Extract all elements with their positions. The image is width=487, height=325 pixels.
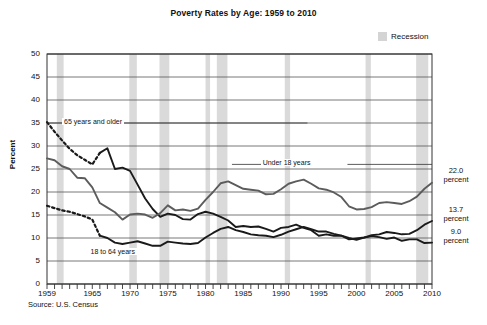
series-line [100, 221, 432, 246]
x-axis-tick-label: 1975 [148, 289, 188, 298]
end-value-adults: 13.7 [436, 205, 476, 214]
y-axis-tick-label: 25 [10, 165, 40, 173]
source-note: Source: U.S. Census [28, 300, 98, 309]
y-axis-tick-label: 50 [10, 50, 40, 58]
end-unit-older: percent [436, 236, 476, 245]
legend-recession: Recession [378, 32, 428, 41]
y-axis-tick-label: 15 [10, 211, 40, 219]
y-axis-tick-label: 40 [10, 96, 40, 104]
y-axis-tick-label: 35 [10, 119, 40, 127]
y-axis-tick-label: 20 [10, 188, 40, 196]
y-axis-tick-label: 45 [10, 73, 40, 81]
y-axis-tick-label: 10 [10, 234, 40, 242]
x-axis-tick-label: 1995 [299, 289, 339, 298]
series-label-18-to-64: 18 to 64 years [89, 248, 137, 255]
x-axis-tick-label: 1990 [261, 289, 301, 298]
series-label-65-and-older: 65 years and older [62, 118, 124, 125]
x-axis-tick-label: 1985 [223, 289, 263, 298]
series-line [47, 158, 432, 219]
page-title: Poverty Rates by Age: 1959 to 2010 [0, 8, 487, 18]
y-axis-title: Percent [8, 125, 17, 185]
y-axis-tick-label: 0 [10, 280, 40, 288]
series-line-dashed [47, 206, 100, 236]
series-label-under-18: Under 18 years [261, 159, 313, 166]
chart-root: Poverty Rates by Age: 1959 to 2010 Reces… [0, 0, 487, 325]
x-axis-tick-label: 2000 [337, 289, 377, 298]
plot-area [0, 0, 487, 325]
recession-swatch-icon [378, 32, 387, 41]
series-line-dashed [47, 122, 100, 164]
end-value-annotation: 9.0percent [436, 227, 476, 245]
legend-label-recession: Recession [391, 32, 428, 41]
end-value-annotation: 22.0percent [436, 166, 476, 184]
end-unit-adults: percent [436, 214, 476, 223]
x-axis-tick-label: 1970 [110, 289, 150, 298]
end-value-under18: 22.0 [436, 166, 476, 175]
x-axis-tick-label: 1965 [72, 289, 112, 298]
end-value-annotation: 13.7percent [436, 205, 476, 223]
x-axis-tick-label: 2005 [374, 289, 414, 298]
y-axis-tick-label: 30 [10, 142, 40, 150]
x-axis-tick-label: 2010 [412, 289, 452, 298]
y-axis-tick-label: 5 [10, 257, 40, 265]
end-value-older: 9.0 [436, 227, 476, 236]
end-unit-under18: percent [436, 175, 476, 184]
x-axis-tick-label: 1980 [186, 289, 226, 298]
x-axis-tick-label: 1959 [27, 289, 67, 298]
